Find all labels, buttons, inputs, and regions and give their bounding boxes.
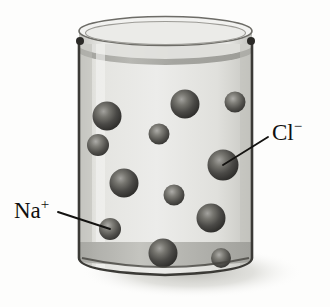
ion-sphere [149, 124, 170, 145]
beaker-rim-inner [86, 22, 246, 45]
sodium-label: Na+ [14, 196, 49, 223]
sodium-symbol: Na [14, 198, 41, 223]
ion-sphere [87, 134, 109, 156]
liquid-column [78, 29, 254, 276]
ion-sphere [197, 204, 226, 233]
sodium-charge: + [41, 196, 49, 212]
rim-corner-left [76, 37, 84, 45]
ion-sphere [149, 239, 178, 268]
beaker-figure: Cl− Na+ [0, 0, 330, 307]
chloride-charge: − [294, 118, 302, 134]
rim-corner-right [247, 37, 255, 45]
chloride-label: Cl− [272, 118, 302, 145]
ion-sphere [171, 90, 200, 119]
ion-sphere [225, 92, 246, 113]
ion-sphere [93, 102, 122, 131]
chloride-symbol: Cl [272, 120, 294, 145]
ion-sphere [164, 185, 185, 206]
ion-sphere [110, 169, 139, 198]
